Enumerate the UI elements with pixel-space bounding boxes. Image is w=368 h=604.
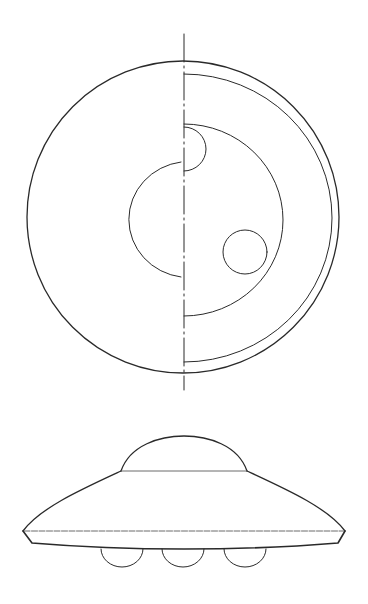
side-port-circle: [223, 230, 267, 274]
landing-pod-center: [162, 549, 204, 567]
landing-pod-left: [101, 549, 143, 567]
landing-pod-right: [224, 549, 266, 567]
technical-drawing: [0, 0, 368, 604]
outer-disc: [27, 61, 339, 373]
top-view: [27, 34, 339, 390]
dome: [121, 436, 247, 471]
side-view: [23, 436, 345, 567]
upper-hull-right: [247, 471, 345, 531]
upper-hull: [23, 471, 121, 531]
central-chamber-left-half: [129, 162, 181, 277]
rim-ring-right-half: [184, 74, 332, 362]
lower-hull: [23, 531, 345, 549]
inner-chamber-right-half: [184, 124, 283, 316]
upper-port-semicircle: [184, 127, 206, 171]
